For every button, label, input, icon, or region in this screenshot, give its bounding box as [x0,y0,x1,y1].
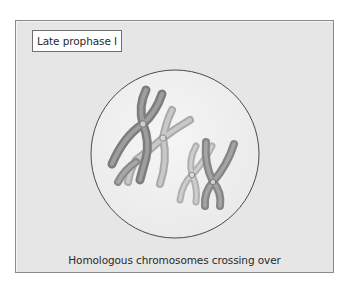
figure: Late prophase I Homologous chromosomes c… [0,0,352,290]
figure-caption: Homologous chromosomes crossing over [15,254,334,266]
stage-label: Late prophase I [32,30,122,52]
